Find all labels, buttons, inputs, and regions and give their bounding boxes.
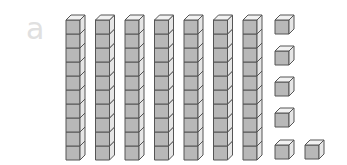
base-ten-blocks: [0, 0, 347, 165]
tens-rod: [243, 15, 262, 160]
tens-rod: [214, 15, 233, 160]
unit-cube: [305, 140, 324, 159]
unit-cube: [275, 140, 294, 159]
tens-rod: [125, 15, 144, 160]
unit-cube: [275, 108, 294, 127]
tens-rod: [155, 15, 174, 160]
tens-rod: [66, 15, 85, 160]
unit-cube: [275, 15, 294, 34]
unit-cube: [275, 77, 294, 96]
tens-rod: [96, 15, 115, 160]
unit-cube: [275, 46, 294, 65]
tens-rod: [184, 15, 203, 160]
